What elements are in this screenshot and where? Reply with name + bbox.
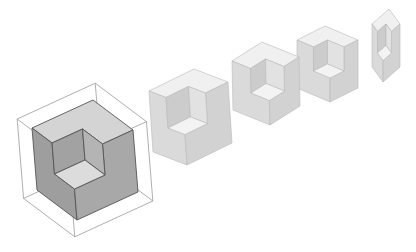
- cube-5: [372, 9, 400, 82]
- cube-3: [232, 42, 300, 125]
- cube-sequence-figure: [0, 0, 416, 252]
- cube-1-highlighted: [17, 83, 153, 237]
- cube-2: [149, 69, 232, 165]
- cube-sequence-canvas: [0, 0, 416, 252]
- cube-4: [297, 26, 358, 102]
